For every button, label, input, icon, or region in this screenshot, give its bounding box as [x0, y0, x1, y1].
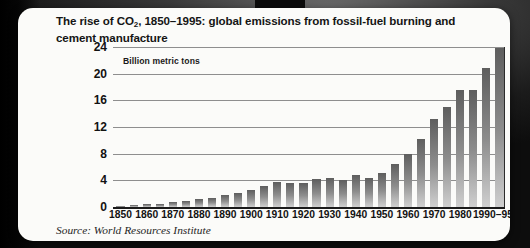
- x-tick-label-1970: 1970: [423, 209, 446, 220]
- bar-1965: [417, 139, 425, 207]
- bar-1955: [391, 164, 399, 207]
- x-tick-label-1860: 1860: [135, 209, 158, 220]
- x-axis-ticks: 1850186018701880189019001910192019301940…: [113, 209, 505, 223]
- chart-title-part1: The rise of CO: [56, 14, 134, 27]
- right-axis-line: [504, 47, 506, 207]
- x-tick-label-1930: 1930: [318, 209, 341, 220]
- bar-1950: [378, 173, 386, 207]
- bar-1940: [352, 175, 360, 207]
- bar-1925: [312, 179, 320, 207]
- bar-1930: [326, 178, 334, 207]
- chart-card: The rise of CO2, 1850–1995: global emiss…: [18, 8, 510, 241]
- x-tick-label-1910: 1910: [266, 209, 289, 220]
- bar-series: [113, 47, 503, 207]
- bar-1995: [495, 48, 503, 207]
- y-tick-label-4: 4: [100, 173, 107, 187]
- bar-1990: [482, 68, 490, 207]
- y-tick-label-16: 16: [94, 93, 107, 107]
- bar-1850: [116, 206, 124, 207]
- x-tick-label-1940: 1940: [344, 209, 367, 220]
- y-tick-label-24: 24: [94, 40, 107, 54]
- x-tick-label-1850: 1850: [109, 209, 132, 220]
- bar-1985: [469, 90, 477, 207]
- source-note: Source: World Resources Institute: [56, 224, 211, 236]
- bar-1960: [404, 154, 412, 207]
- x-tick-label-1880: 1880: [187, 209, 210, 220]
- bar-1920: [299, 183, 307, 207]
- chart-title-part2: , 1850–1995: global emissions from fossi…: [138, 14, 386, 27]
- x-tick-label-1900: 1900: [240, 209, 263, 220]
- x-tick-label-1870: 1870: [161, 209, 184, 220]
- x-tick-label-1890: 1890: [214, 209, 237, 220]
- bar-1980: [456, 90, 464, 207]
- bar-1905: [260, 186, 268, 207]
- x-tick-label-1950: 1950: [370, 209, 393, 220]
- x-tick-label-1960: 1960: [397, 209, 420, 220]
- bar-1935: [339, 180, 347, 207]
- bar-1885: [208, 198, 216, 207]
- bar-1895: [234, 193, 242, 207]
- x-tick-label-1920: 1920: [292, 209, 315, 220]
- bar-1970: [430, 119, 438, 207]
- chart-title-subscript: 2: [134, 20, 138, 29]
- plot-area: Billion metric tons 04812162024: [113, 47, 505, 207]
- bar-1875: [182, 201, 190, 207]
- bar-1855: [130, 205, 138, 207]
- bar-1890: [221, 195, 229, 207]
- bar-1975: [443, 107, 451, 207]
- bar-1945: [365, 178, 373, 207]
- x-tick-label-1980: 1980: [449, 209, 472, 220]
- bar-1900: [247, 190, 255, 207]
- bar-1860: [143, 204, 151, 207]
- y-tick-label-12: 12: [94, 120, 107, 134]
- bar-1880: [195, 199, 203, 207]
- y-tick-label-0: 0: [100, 200, 107, 214]
- bar-1915: [286, 183, 294, 207]
- bar-1910: [273, 182, 281, 207]
- x-tick-label-1990–95: 1990–95: [473, 209, 510, 220]
- bar-1870: [169, 202, 177, 207]
- y-tick-label-8: 8: [100, 147, 107, 161]
- bar-1865: [156, 204, 164, 207]
- y-tick-label-20: 20: [94, 67, 107, 81]
- chart-title: The rise of CO2, 1850–1995: global emiss…: [56, 14, 486, 45]
